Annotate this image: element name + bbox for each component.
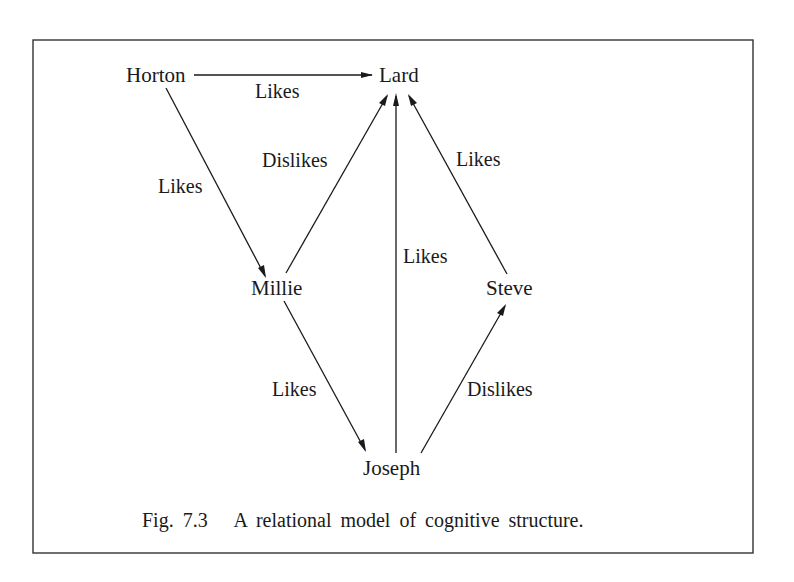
arrowhead-joseph-steve [497, 304, 506, 316]
edge-label-millie-lard: Dislikes [262, 149, 328, 171]
arrowhead-joseph-lard [393, 93, 399, 106]
node-horton: Horton [126, 63, 186, 87]
arrowhead-horton-lard [361, 72, 373, 78]
edge-millie-lard [286, 96, 387, 273]
relational-model-diagram: Horton Lard Millie Steve Joseph Likes Li… [0, 0, 794, 582]
arrowhead-steve-lard [408, 94, 417, 106]
arrowhead-millie-joseph [358, 439, 366, 452]
edge-label-joseph-steve: Dislikes [467, 378, 533, 400]
figure-caption: Fig. 7.3 A relational model of cognitive… [142, 509, 583, 532]
edge-label-joseph-lard: Likes [403, 245, 448, 267]
edge-label-millie-joseph: Likes [272, 378, 317, 400]
edge-label-horton-lard: Likes [255, 80, 300, 102]
edge-label-steve-lard: Likes [456, 148, 501, 170]
edge-label-horton-millie: Likes [158, 175, 203, 197]
node-steve: Steve [486, 276, 533, 300]
node-joseph: Joseph [363, 456, 421, 480]
node-lard: Lard [379, 63, 419, 87]
edge-millie-joseph [284, 301, 365, 450]
node-millie: Millie [251, 276, 302, 300]
arrowhead-millie-lard [379, 94, 388, 106]
edges [166, 72, 507, 453]
